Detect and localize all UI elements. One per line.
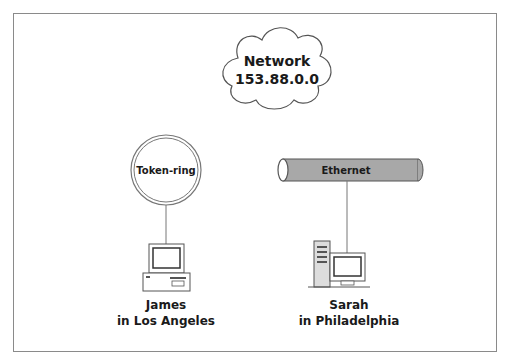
token-ring: Token-ring bbox=[131, 135, 201, 244]
cloud-label-line2: 153.88.0.0 bbox=[235, 71, 319, 87]
network-cloud: Network 153.88.0.0 bbox=[223, 28, 331, 109]
ethernet-bus: Ethernet bbox=[278, 159, 423, 258]
sarah-computer-icon bbox=[308, 241, 370, 287]
sarah-location: in Philadelphia bbox=[299, 314, 400, 328]
sarah-name: Sarah bbox=[329, 298, 368, 312]
james-computer-icon bbox=[143, 244, 190, 291]
ethernet-label: Ethernet bbox=[321, 165, 370, 176]
james-location: in Los Angeles bbox=[117, 314, 215, 328]
network-diagram: Network 153.88.0.0 Token-ring Ethernet J… bbox=[0, 0, 511, 363]
token-ring-label: Token-ring bbox=[136, 165, 195, 176]
james-name: James bbox=[145, 298, 186, 312]
cloud-label-line1: Network bbox=[244, 53, 311, 69]
